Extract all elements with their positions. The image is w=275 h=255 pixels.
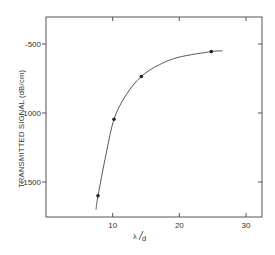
y-axis-ticks: -500-1000-1500 [21, 40, 262, 187]
x-tick-label: 20 [175, 221, 184, 230]
x-axis-ticks: 102030 [108, 17, 251, 230]
data-point [112, 117, 116, 121]
y-label-main: TRANSMITTED SIGNAL [17, 100, 26, 188]
y-tick-label: -500 [25, 40, 42, 49]
y-label-unit: (dB/cm) [17, 69, 26, 98]
x-label-d: d [142, 234, 146, 243]
fitted-curve [96, 51, 223, 210]
chart-canvas: 102030 -500-1000-1500 λ d TRANSMITTED SI… [0, 0, 275, 255]
data-point [140, 75, 144, 79]
x-tick-label: 10 [108, 221, 117, 230]
data-points [96, 50, 213, 198]
x-tick-label: 30 [242, 221, 251, 230]
data-point [210, 50, 214, 54]
plot-frame [46, 17, 262, 217]
x-axis-label: λ d [133, 231, 146, 243]
x-label-lambda: λ [133, 232, 137, 241]
data-point [96, 194, 100, 198]
y-axis-label: TRANSMITTED SIGNAL (dB/cm) [17, 69, 26, 188]
